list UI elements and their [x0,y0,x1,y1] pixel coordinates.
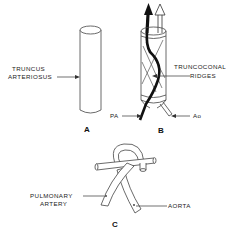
label-ao: Ao [193,112,202,119]
label-pa: PA [110,112,119,119]
label-ridges-line1: TRUNCOCONAL [174,63,226,70]
truncoconal-ridges [142,40,165,92]
panel-label-b: B [158,126,164,135]
panel-label-a: A [84,125,90,134]
label-ridges-line2: RIDGES [190,72,216,79]
diagram-canvas: TRUNCUS ARTERIOSUS A [0,0,241,230]
label-pulmonary-line2: ARTERY [40,200,67,207]
dark-flow-arrow [144,3,153,33]
pa-arrow [122,114,142,118]
aorta-outlet [160,102,172,116]
truncus-cylinder [80,26,101,113]
panel-label-c: C [112,220,118,229]
ao-arrow [171,114,190,118]
label-aorta: AORTA [168,202,191,209]
label-truncus-line2: ARTERIOSUS [8,73,52,80]
great-vessels [95,144,156,213]
label-pulmonary-line1: PULMONARY [30,192,73,199]
pulmonary-artery-arrow [83,195,107,197]
label-truncus-line1: TRUNCUS [12,65,45,72]
truncus-arrow [57,75,80,79]
